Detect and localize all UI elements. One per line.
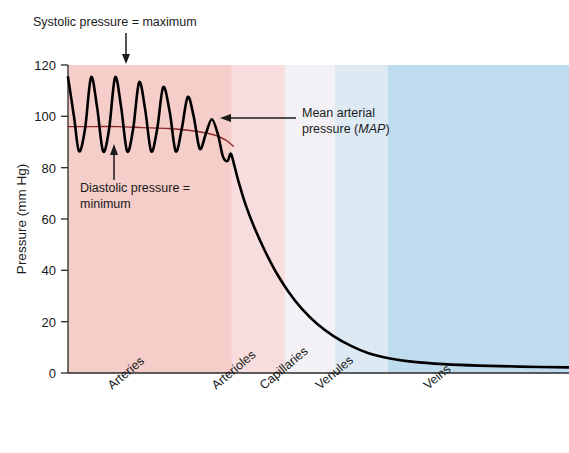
band-veins — [388, 65, 569, 373]
diastolic-annotation-line1: Diastolic pressure = — [80, 181, 190, 195]
band-arteries — [68, 65, 232, 373]
blood-pressure-figure: 120 100 80 60 40 20 0 Pressure (mm Hg) A… — [0, 0, 569, 453]
map-annotation-line2: pressure (MAP) — [302, 122, 390, 136]
y-tick-label-60: 60 — [42, 212, 56, 227]
map-annotation-line2-pre: pressure ( — [302, 122, 359, 136]
y-tick-label-120: 120 — [34, 58, 56, 73]
map-annotation-line2-post: ) — [385, 122, 389, 136]
systolic-annotation-text: Systolic pressure = maximum — [33, 15, 197, 29]
y-tick-label-0: 0 — [49, 366, 56, 381]
map-annotation-line1: Mean arterial — [302, 106, 375, 120]
map-annotation-line2-italic: MAP — [358, 122, 386, 136]
y-tick-label-40: 40 — [42, 263, 56, 278]
y-tick-label-80: 80 — [42, 161, 56, 176]
y-tick-label-100: 100 — [34, 109, 56, 124]
y-axis-title: Pressure (mm Hg) — [14, 164, 29, 274]
y-tick-label-20: 20 — [42, 315, 56, 330]
diastolic-annotation-line2: minimum — [80, 197, 131, 211]
band-arterioles — [232, 65, 285, 373]
pressure-chart-svg: 120 100 80 60 40 20 0 Pressure (mm Hg) A… — [0, 0, 569, 453]
